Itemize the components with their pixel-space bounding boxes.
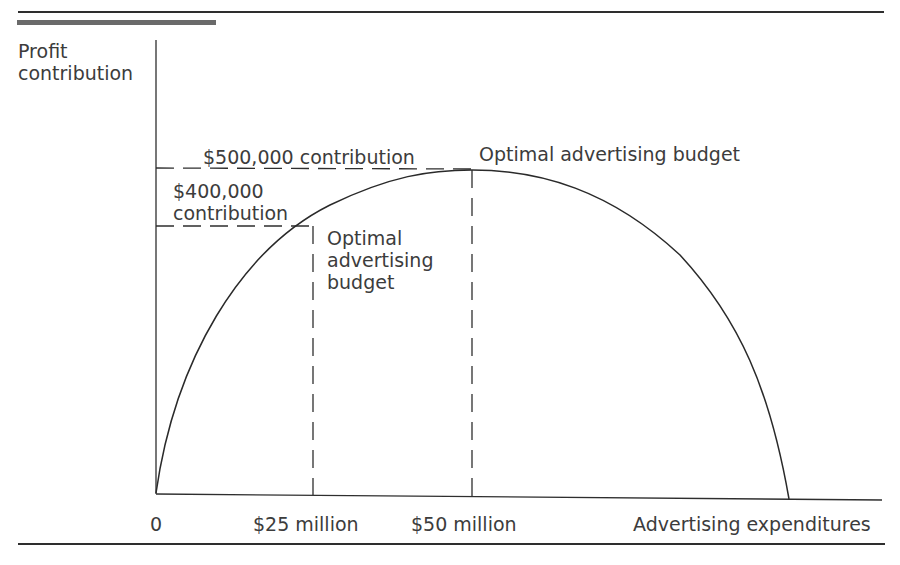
x-tick-25m: $25 million xyxy=(253,513,359,535)
annotation-optimal-peak: Optimal advertising budget xyxy=(479,143,740,165)
annotation-400k-line1: $400,000 xyxy=(173,180,264,202)
annotation-optimal-lower-line2: advertising xyxy=(327,249,433,271)
x-tick-0: 0 xyxy=(150,513,162,535)
x-axis xyxy=(156,494,882,500)
y-axis-label-line2: contribution xyxy=(18,62,133,84)
y-axis-label-line1: Profit xyxy=(18,40,68,62)
annotation-500k: $500,000 contribution xyxy=(203,146,415,168)
annotation-optimal-lower-line1: Optimal xyxy=(327,227,402,249)
profit-curve-chart xyxy=(0,0,900,565)
annotation-400k-line2: contribution xyxy=(173,202,288,224)
x-axis-label: Advertising expenditures xyxy=(633,513,871,535)
annotation-optimal-lower-line3: budget xyxy=(327,271,394,293)
dashed-line-500k xyxy=(156,168,472,169)
x-tick-50m: $50 million xyxy=(411,513,517,535)
